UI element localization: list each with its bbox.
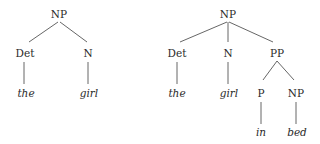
edge-pp-p xyxy=(263,61,277,80)
word-node-bed: bed xyxy=(287,127,307,138)
category-node-np2: NP xyxy=(288,88,304,99)
edge-np-pp xyxy=(229,22,273,42)
category-node-pp: PP xyxy=(270,48,284,59)
category-node-det: Det xyxy=(16,48,35,59)
word-node-the: the xyxy=(17,88,34,99)
edge-pp-np2 xyxy=(277,61,294,80)
word-node-in: in xyxy=(256,127,266,138)
category-node-n: N xyxy=(83,48,92,59)
edge-np-det xyxy=(180,22,227,42)
category-node-np: NP xyxy=(51,9,67,20)
tree-edges xyxy=(0,0,320,144)
edge-np-n xyxy=(60,22,87,42)
category-node-n: N xyxy=(223,48,232,59)
category-node-det: Det xyxy=(168,48,187,59)
tree-2-edges xyxy=(177,22,296,124)
word-node-girl: girl xyxy=(220,88,238,99)
edge-np-det xyxy=(29,22,58,42)
word-node-girl: girl xyxy=(80,88,98,99)
category-node-p: P xyxy=(257,88,264,99)
word-node-the: the xyxy=(168,88,185,99)
category-node-np: NP xyxy=(220,9,236,20)
syntax-tree-diagram: NPDetNthegirlNPDetNPPthegirlPNPinbed xyxy=(0,0,320,144)
